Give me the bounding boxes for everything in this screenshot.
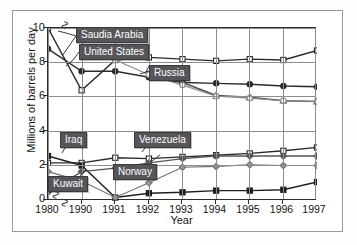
series-label-russia: Russia	[149, 65, 190, 81]
series-label-iraq: Iraq	[60, 132, 87, 148]
callout-leader-lines	[0, 0, 357, 245]
series-label-norway: Norway	[113, 164, 157, 180]
series-label-venezuela: Venezuela	[134, 132, 191, 148]
series-label-kuwait: Kuwait	[48, 176, 88, 192]
series-label-united-states: United States	[79, 44, 149, 60]
chart-figure: Millions of barrels per day 10 8 6 4 2 0…	[0, 0, 357, 245]
series-label-saudi-arabia: Saudia Arabia	[76, 27, 148, 43]
